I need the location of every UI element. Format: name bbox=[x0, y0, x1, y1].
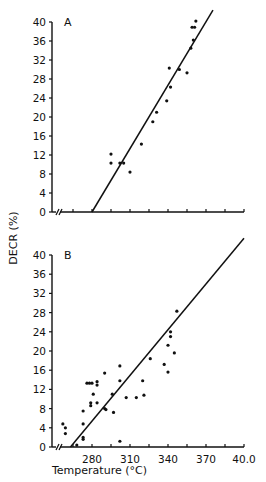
data-point bbox=[122, 161, 125, 164]
y-tick-label: 36 bbox=[33, 268, 47, 280]
data-point bbox=[95, 383, 98, 386]
data-point bbox=[178, 68, 181, 71]
data-point bbox=[89, 401, 92, 404]
data-point bbox=[169, 330, 172, 333]
data-point bbox=[169, 85, 172, 88]
data-point bbox=[112, 411, 115, 414]
data-point bbox=[75, 443, 78, 446]
data-point bbox=[193, 26, 196, 29]
x-tick-label: 40.0 bbox=[232, 453, 255, 465]
data-point bbox=[168, 66, 171, 69]
axis-break-mark bbox=[56, 209, 59, 215]
y-tick-label: 20 bbox=[33, 345, 46, 357]
data-point bbox=[189, 47, 192, 50]
data-point bbox=[194, 19, 197, 22]
y-tick-label: 24 bbox=[33, 92, 47, 104]
regression-line bbox=[70, 238, 244, 447]
y-tick-label: 12 bbox=[33, 383, 46, 395]
data-point bbox=[166, 344, 169, 347]
y-tick-label: 0 bbox=[39, 441, 46, 453]
data-point bbox=[109, 161, 112, 164]
data-point bbox=[151, 120, 154, 123]
y-axis-title: DECR (%) bbox=[7, 211, 20, 264]
y-tick-label: 4 bbox=[39, 187, 46, 199]
panel-label: A bbox=[64, 16, 72, 29]
y-tick-label: 0 bbox=[39, 206, 46, 218]
data-point bbox=[118, 440, 121, 443]
panel-a: 0481216202428323640A bbox=[33, 10, 244, 218]
y-tick-label: 32 bbox=[33, 287, 46, 299]
data-point bbox=[169, 335, 172, 338]
data-point bbox=[166, 371, 169, 374]
data-point bbox=[128, 171, 131, 174]
data-point bbox=[173, 351, 176, 354]
y-tick-label: 28 bbox=[33, 307, 46, 319]
data-point bbox=[185, 71, 188, 74]
data-point bbox=[118, 161, 121, 164]
y-tick-label: 40 bbox=[33, 16, 46, 28]
data-point bbox=[149, 357, 152, 360]
x-axis-title: Temperature (°C) bbox=[51, 464, 147, 477]
panel-label: B bbox=[64, 249, 72, 262]
y-tick-label: 4 bbox=[39, 422, 46, 434]
data-point bbox=[64, 426, 67, 429]
y-tick-label: 8 bbox=[39, 403, 46, 415]
x-tick-label: 370 bbox=[196, 453, 216, 465]
y-tick-label: 16 bbox=[33, 364, 47, 376]
y-tick-label: 8 bbox=[39, 168, 46, 180]
y-tick-label: 16 bbox=[33, 130, 47, 142]
data-point bbox=[64, 432, 67, 435]
data-point bbox=[92, 393, 95, 396]
data-point bbox=[109, 152, 112, 155]
y-tick-label: 24 bbox=[33, 326, 47, 338]
data-point bbox=[140, 142, 143, 145]
data-point bbox=[111, 393, 114, 396]
y-tick-label: 40 bbox=[33, 249, 46, 261]
data-point bbox=[175, 310, 178, 313]
panel-b: 048121620242832364028031034037040.0B bbox=[33, 238, 256, 465]
data-point bbox=[118, 364, 121, 367]
data-point bbox=[135, 396, 138, 399]
data-point bbox=[142, 394, 145, 397]
y-tick-label: 20 bbox=[33, 111, 46, 123]
data-point bbox=[82, 409, 85, 412]
data-point bbox=[82, 422, 85, 425]
data-point bbox=[141, 379, 144, 382]
data-point bbox=[125, 396, 128, 399]
x-tick-label: 340 bbox=[158, 453, 178, 465]
axis-break-mark bbox=[56, 444, 59, 450]
data-point bbox=[103, 371, 106, 374]
data-point bbox=[90, 382, 93, 385]
data-point bbox=[95, 380, 98, 383]
y-tick-label: 28 bbox=[33, 73, 46, 85]
data-point bbox=[163, 363, 166, 366]
data-point bbox=[61, 422, 64, 425]
data-point bbox=[118, 379, 121, 382]
data-point bbox=[104, 408, 107, 411]
data-point bbox=[165, 99, 168, 102]
y-tick-label: 36 bbox=[33, 35, 47, 47]
data-point bbox=[95, 401, 98, 404]
data-point bbox=[82, 438, 85, 441]
data-point bbox=[155, 111, 158, 114]
y-tick-label: 12 bbox=[33, 149, 46, 161]
data-point bbox=[89, 404, 92, 407]
data-point bbox=[192, 38, 195, 41]
y-tick-label: 32 bbox=[33, 54, 46, 66]
figure: 0481216202428323640A 0481216202428323640… bbox=[0, 0, 266, 482]
